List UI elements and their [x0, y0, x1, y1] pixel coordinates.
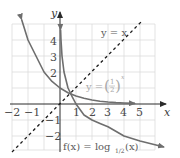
svg-text:(: (: [104, 77, 110, 95]
x-tick-label: 5: [136, 106, 143, 119]
identity-line-label: y = x: [100, 27, 127, 38]
y-tick-label: 2: [50, 67, 57, 80]
y-tick-label: −1: [45, 114, 61, 127]
identity-line: [12, 22, 141, 152]
y-tick-label: −2: [45, 130, 61, 143]
grid: [12, 24, 155, 150]
x-tick-label: 1: [73, 106, 80, 119]
svg-text:): ): [115, 77, 121, 95]
x-tick-label: 4: [120, 106, 127, 119]
svg-text:1: 1: [110, 78, 114, 86]
svg-text:f(x) = log: f(x) = log: [63, 141, 111, 152]
x-tick-label: 2: [89, 106, 96, 119]
svg-text:y =: y =: [85, 81, 103, 92]
x-tick-label: −2: [4, 106, 20, 119]
x-axis-label: x: [164, 106, 171, 119]
svg-text:1/2: 1/2: [115, 147, 125, 154]
x-tick-label: −1: [24, 106, 40, 119]
y-tick-label: 3: [50, 51, 57, 64]
y-axis-label: y: [50, 7, 58, 20]
y-tick-label: 4: [50, 35, 57, 48]
function-graph: y x −2 −1 1 2 3 4 5 4 3 2 −1 −2 y = x y …: [0, 0, 180, 158]
x-tick-label: 3: [104, 106, 111, 119]
exponential-label: y = ( 1 2 ) x: [85, 73, 125, 95]
svg-text:(x): (x): [125, 141, 139, 152]
svg-text:2: 2: [110, 86, 114, 94]
